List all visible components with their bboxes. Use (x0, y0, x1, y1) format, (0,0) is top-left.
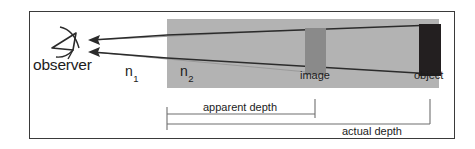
ray-arrowheads-group (88, 35, 100, 57)
refraction-diagram-figure: observer n1 n2 image object apparent dep… (0, 0, 475, 149)
image-label: image (300, 70, 330, 81)
object-label: object (414, 70, 443, 81)
n1-base: n (125, 63, 133, 79)
actual-depth-label: actual depth (342, 126, 402, 137)
observer-eye-icon (52, 27, 79, 59)
n1-subscript: 1 (133, 73, 138, 84)
n2-base: n (180, 63, 188, 79)
image-block (305, 28, 326, 75)
apparent-depth-label: apparent depth (203, 102, 277, 113)
refractive-index-n1-label: n1 (125, 64, 138, 81)
refractive-index-n2-label: n2 (180, 64, 193, 81)
diagram-canvas (0, 0, 475, 149)
observer-label: observer (33, 57, 92, 73)
n2-subscript: 2 (188, 73, 193, 84)
